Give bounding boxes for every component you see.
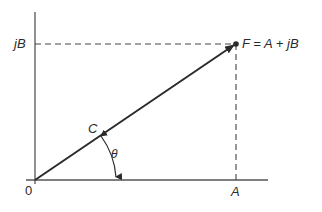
theta-label: θ — [111, 147, 118, 161]
c-label: C — [88, 121, 98, 136]
vector-f — [35, 45, 234, 180]
jb-label: jB — [12, 36, 26, 51]
phasor-diagram: 0 jB A F = A + jB C θ — [0, 0, 322, 212]
a-label: A — [230, 184, 240, 199]
f-equation-label: F = A + jB — [242, 36, 299, 51]
origin-label: 0 — [25, 183, 32, 198]
point-f — [233, 41, 239, 47]
